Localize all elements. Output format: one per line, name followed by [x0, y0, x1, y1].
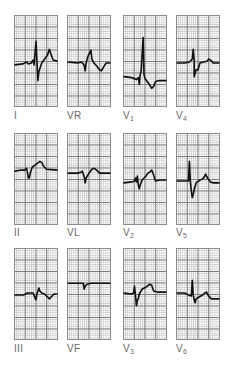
ecg-trace-v3	[124, 249, 166, 339]
ecg-trace-vl	[68, 134, 110, 224]
lead-label-vl: VL	[67, 228, 80, 238]
ecg-trace-iii	[15, 249, 57, 339]
lead-label-i: I	[14, 111, 17, 121]
lead-label-text: V	[123, 227, 130, 238]
lead-label-subscript: 3	[130, 348, 134, 355]
ecg-panel-lead-iii	[14, 248, 58, 340]
ecg-panel-lead-v5	[176, 133, 220, 225]
ecg-panel-lead-v1	[123, 15, 167, 107]
ecg-panel-lead-vr	[67, 15, 111, 107]
ecg-trace-v4	[177, 16, 219, 106]
ecg-trace-v6	[177, 249, 219, 339]
ecg-panel-lead-ii	[14, 133, 58, 225]
ecg-trace-v1	[124, 16, 166, 106]
lead-label-vf: VF	[67, 344, 80, 354]
lead-label-subscript: 2	[130, 232, 134, 239]
ecg-trace-i	[15, 16, 57, 106]
lead-label-subscript: 6	[183, 348, 187, 355]
ecg-trace-ii	[15, 134, 57, 224]
lead-label-subscript: 5	[183, 232, 187, 239]
lead-label-text: VF	[67, 343, 80, 354]
lead-label-text: VL	[67, 227, 80, 238]
lead-label-text: III	[14, 343, 23, 354]
lead-label-text: VR	[67, 110, 82, 121]
lead-label-iii: III	[14, 344, 23, 354]
ecg-panel-lead-vl	[67, 133, 111, 225]
lead-label-v2: V2	[123, 228, 134, 241]
ecg-panel-lead-v6	[176, 248, 220, 340]
ecg-trace-vf	[68, 249, 110, 339]
lead-label-text: II	[14, 227, 20, 238]
lead-label-subscript: 1	[130, 115, 134, 122]
ecg-panel-lead-v4	[176, 15, 220, 107]
lead-label-subscript: 4	[183, 115, 187, 122]
lead-label-v5: V5	[176, 228, 187, 241]
ecg-panel-lead-i	[14, 15, 58, 107]
lead-label-text: V	[176, 343, 183, 354]
ecg-trace-v5	[177, 134, 219, 224]
lead-label-v4: V4	[176, 111, 187, 124]
lead-label-text: V	[176, 227, 183, 238]
lead-label-ii: II	[14, 228, 20, 238]
ecg-trace-vr	[68, 16, 110, 106]
ecg-panel-lead-v3	[123, 248, 167, 340]
lead-label-text: V	[176, 110, 183, 121]
lead-label-vr: VR	[67, 111, 82, 121]
lead-label-v3: V3	[123, 344, 134, 357]
lead-label-v6: V6	[176, 344, 187, 357]
lead-label-text: V	[123, 110, 130, 121]
ecg-trace-v2	[124, 134, 166, 224]
ecg-panel-lead-vf	[67, 248, 111, 340]
ecg-panel-lead-v2	[123, 133, 167, 225]
lead-label-v1: V1	[123, 111, 134, 124]
lead-label-text: I	[14, 110, 17, 121]
lead-label-text: V	[123, 343, 130, 354]
